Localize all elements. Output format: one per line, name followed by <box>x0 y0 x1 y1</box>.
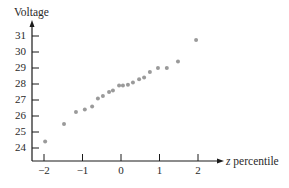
data-point <box>90 104 94 108</box>
data-point <box>142 76 146 80</box>
data-point <box>96 96 100 100</box>
y-tick-label: 26 <box>6 110 26 121</box>
data-point <box>165 66 169 70</box>
x-axis-label: z percentile <box>226 156 279 167</box>
y-axis-label: Voltage <box>14 7 49 18</box>
data-point <box>111 88 115 92</box>
x-axis-arrow-icon <box>217 159 224 164</box>
data-point <box>137 77 141 81</box>
data-point <box>107 90 111 94</box>
data-point <box>101 94 105 98</box>
data-point <box>194 38 198 42</box>
scatter-chart: Voltage z percentile 2425262728293031 −2… <box>0 0 289 188</box>
y-tick-label: 24 <box>6 142 26 153</box>
x-tick-label: 2 <box>188 165 208 176</box>
x-tick-label: 1 <box>150 165 170 176</box>
data-point <box>121 84 125 88</box>
x-tick-label: −1 <box>73 165 93 176</box>
data-point <box>176 60 180 64</box>
x-tick-label: 0 <box>111 165 131 176</box>
data-point <box>156 66 160 70</box>
data-point <box>131 80 135 84</box>
y-axis-arrow-icon <box>30 20 35 27</box>
y-tick-label: 25 <box>6 126 26 137</box>
data-point <box>43 140 47 144</box>
y-tick-label: 30 <box>6 46 26 57</box>
y-tick-label: 31 <box>6 30 26 41</box>
data-point <box>117 84 121 88</box>
x-axis-label-text: percentile <box>230 155 278 167</box>
data-point <box>126 83 130 87</box>
y-tick-label: 29 <box>6 62 26 73</box>
y-tick-label: 27 <box>6 94 26 105</box>
x-tick-label: −2 <box>34 165 54 176</box>
data-points <box>43 38 198 144</box>
data-point <box>83 108 87 112</box>
data-point <box>148 70 152 74</box>
y-tick-label: 28 <box>6 78 26 89</box>
data-point <box>74 110 78 114</box>
data-point <box>62 122 66 126</box>
